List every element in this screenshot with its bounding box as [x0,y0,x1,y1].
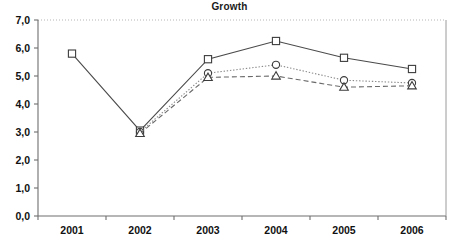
data-point-square [68,50,75,57]
data-point-triangle [272,72,281,79]
y-axis-label: 6,0 [15,42,30,54]
x-axis-label: 2001 [60,224,84,236]
data-point-square [204,56,211,63]
x-axis-label: 2006 [400,224,424,236]
data-point-circle [272,61,279,68]
data-series-group [68,37,416,136]
line-chart-plot: 0,01,02,03,04,05,06,07,0 200120022003200… [0,0,459,251]
y-axis-tick-group: 0,01,02,03,04,05,06,07,0 [15,14,38,222]
x-axis-label: 2002 [128,224,152,236]
y-axis-label: 1,0 [15,182,30,194]
y-axis-label: 2,0 [15,154,30,166]
y-axis-label: 0,0 [15,210,30,222]
data-point-square [272,37,279,44]
series-line-triangle [140,76,412,133]
y-axis-label: 3,0 [15,126,30,138]
x-axis-label: 2004 [264,224,288,236]
series-line-square [72,41,412,131]
x-axis-label: 2005 [332,224,356,236]
x-axis-tick-group: 200120022003200420052006 [38,216,446,236]
data-point-square [340,54,347,61]
chart-container: Growth 0,01,02,03,04,05,06,07,0 20012002… [0,0,459,251]
y-axis-label: 4,0 [15,98,30,110]
x-axis-label: 2003 [196,224,220,236]
y-axis-label: 7,0 [15,14,30,26]
plot-frame [38,20,446,216]
y-axis-label: 5,0 [15,70,30,82]
data-point-square [408,65,415,72]
